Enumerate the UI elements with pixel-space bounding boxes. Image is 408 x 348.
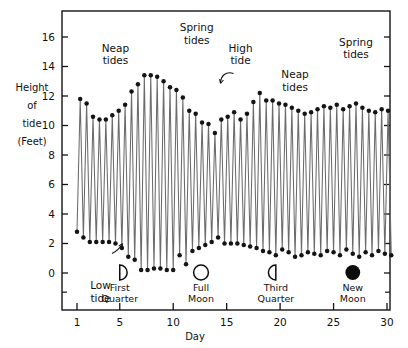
annotation-line: tides — [343, 48, 369, 60]
moon-phase-label: Quarter — [257, 293, 294, 304]
y-axis-title-line: (Feet) — [17, 136, 46, 147]
tide-data-point — [389, 253, 394, 257]
tide-data-point — [290, 106, 295, 111]
tide-data-point — [123, 103, 128, 108]
tide-data-point — [315, 107, 320, 112]
moon-phase-label: Full — [193, 282, 209, 293]
annotation-neap-tides-1: Neaptides — [102, 42, 130, 67]
y-axis-title-line: of — [27, 100, 37, 111]
annotation-spring-tides-2: Springtides — [339, 36, 373, 61]
tide-data-point — [181, 95, 186, 100]
tide-data-point — [328, 106, 333, 111]
tide-data-point — [88, 240, 93, 245]
tide-data-point — [251, 100, 256, 105]
x-tick-label: 5 — [116, 316, 123, 328]
y-tick-label: 8 — [48, 149, 55, 161]
x-tick-label: 20 — [273, 316, 286, 328]
x-tick-label: 25 — [327, 316, 340, 328]
tide-data-point — [302, 111, 307, 116]
tide-data-point — [84, 101, 89, 106]
annotation-spring-tides-1: Springtides — [180, 21, 214, 45]
tide-data-point — [373, 110, 378, 115]
tide-data-point — [306, 250, 311, 255]
tide-data-point — [139, 268, 144, 273]
tide-data-point — [351, 252, 356, 257]
tide-data-point — [161, 79, 166, 84]
annotation-line: Low — [90, 279, 111, 291]
tide-data-point — [174, 88, 179, 93]
x-tick-label: 1 — [74, 316, 81, 328]
tide-data-point — [187, 109, 192, 114]
tide-data-point — [216, 235, 221, 240]
tide-data-point — [184, 262, 189, 267]
annotation-line: Spring — [180, 21, 214, 33]
y-tick-label: 0 — [48, 267, 55, 279]
tide-data-point — [386, 109, 391, 114]
tide-data-point — [200, 120, 205, 125]
tide-data-point — [136, 82, 141, 87]
tide-data-point — [94, 240, 99, 245]
tide-data-point — [258, 91, 263, 96]
y-tick-label: 6 — [48, 178, 55, 190]
tide-data-point — [219, 117, 224, 122]
tide-data-point — [261, 249, 266, 254]
tide-data-point — [242, 243, 247, 248]
tide-data-point — [341, 107, 346, 112]
tide-data-point — [107, 240, 112, 245]
tide-data-point — [248, 244, 253, 249]
tide-data-point — [197, 246, 202, 251]
tide-data-point — [286, 250, 291, 255]
tide-data-point — [245, 111, 250, 116]
x-tick-label: 10 — [167, 316, 180, 328]
tide-data-point — [331, 250, 336, 255]
annotation-line: tide — [230, 54, 250, 66]
tide-data-point — [363, 250, 368, 255]
tide-data-point — [152, 266, 157, 271]
tide-data-point — [293, 255, 298, 260]
tide-data-point — [322, 104, 327, 109]
tide-data-point — [168, 85, 173, 90]
tide-data-point — [354, 101, 359, 106]
tide-data-point — [209, 240, 214, 245]
y-axis-title-line: tide — [22, 118, 41, 129]
tide-data-point — [149, 73, 154, 78]
tide-data-point — [104, 117, 109, 122]
tide-data-point — [299, 253, 304, 257]
y-tick-label: 16 — [42, 31, 56, 43]
tide-data-point — [129, 89, 134, 94]
tide-data-point — [318, 253, 323, 257]
tide-data-point — [309, 110, 314, 115]
tide-data-point — [254, 246, 259, 251]
tide-data-point — [225, 114, 230, 119]
tide-data-point — [100, 240, 105, 245]
tide-data-point — [335, 103, 340, 108]
tide-data-point — [347, 104, 352, 109]
moon-phase-label: Moon — [188, 293, 214, 304]
moon-phase-label: Moon — [340, 293, 366, 304]
annotation-line: Spring — [339, 36, 373, 48]
tide-data-point — [283, 103, 288, 108]
new-moon-icon — [345, 265, 360, 280]
tide-data-point — [113, 241, 118, 246]
annotation-high-tide: Hightide — [228, 42, 252, 67]
tide-data-point — [193, 111, 198, 116]
tide-data-point — [229, 241, 234, 246]
tide-data-point — [370, 253, 375, 257]
tide-data-point — [132, 257, 137, 262]
tide-data-point — [274, 253, 279, 257]
tide-data-point — [360, 106, 365, 111]
tide-data-point — [232, 110, 237, 115]
tide-data-point — [367, 109, 372, 114]
tide-data-point — [165, 268, 170, 273]
annotation-line: High — [228, 42, 252, 54]
tide-data-point — [222, 241, 227, 246]
y-tick-label: 4 — [48, 208, 55, 220]
tide-data-point — [177, 253, 182, 257]
tide-data-point — [142, 73, 147, 78]
annotation-line: Neap — [102, 42, 130, 54]
y-tick-label: 2 — [48, 237, 55, 249]
tide-data-point — [235, 241, 240, 246]
tide-data-point — [280, 247, 285, 252]
moon-phase-label: Quarter — [101, 293, 138, 304]
tide-data-point — [238, 117, 243, 122]
